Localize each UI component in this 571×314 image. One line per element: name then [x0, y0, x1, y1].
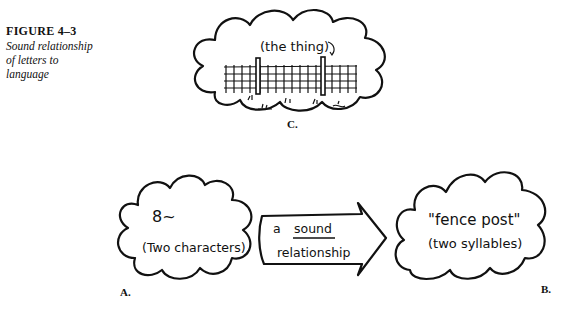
label-a: A. [120, 286, 131, 298]
arrow-label-relationship: relationship [277, 245, 351, 260]
label-b: B. [541, 283, 551, 295]
two-syllables-text: (two syllables) [428, 236, 522, 251]
two-characters-text: (Two characters) [142, 240, 246, 255]
label-c: C. [287, 118, 298, 130]
fence-post-text: "fence post" [428, 211, 520, 229]
diagram: (the thing) 8~ (Two characters) a sound … [0, 0, 571, 314]
annotation-the-thing: (the thing) [260, 39, 329, 54]
arrow-shape [259, 203, 386, 275]
cloud-c [194, 10, 385, 111]
arrow-label-a: a [273, 221, 281, 236]
cloud-a [118, 176, 251, 279]
arrow-label-sound: sound [294, 221, 332, 236]
symbols-text: 8~ [152, 207, 176, 226]
